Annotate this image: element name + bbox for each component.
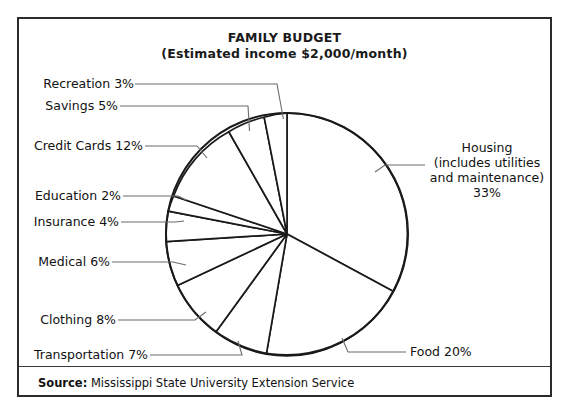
leader-line-transportation (150, 341, 242, 355)
label-savings: Savings 5% (14, 98, 118, 113)
leader-line-clothing (118, 312, 206, 320)
source-divider (19, 366, 550, 367)
label-recreation: Recreation 3% (24, 76, 134, 91)
label-housing: Housing (includes utilities and maintena… (426, 140, 548, 200)
label-insurance: Insurance 4% (18, 214, 119, 229)
label-credit-cards: Credit Cards 12% (20, 138, 143, 153)
chart-figure: FAMILY BUDGET (Estimated income $2,000/m… (0, 0, 574, 417)
source-text: Mississippi State University Extension S… (91, 376, 354, 390)
label-medical: Medical 6% (22, 254, 110, 269)
leader-line-recreation (135, 84, 283, 119)
label-transportation: Transportation 7% (14, 347, 148, 362)
leader-line-food (342, 338, 406, 352)
label-housing-line-4: 33% (426, 185, 548, 200)
label-housing-line-3: and maintenance) (426, 170, 548, 185)
label-food: Food 20% (410, 344, 472, 359)
source-note: Source: Mississippi State University Ext… (38, 376, 354, 390)
label-housing-line-2: (includes utilities (426, 155, 548, 170)
label-clothing: Clothing 8% (24, 312, 116, 327)
source-label: Source: (38, 376, 87, 390)
label-education: Education 2% (20, 188, 121, 203)
label-housing-line-1: Housing (426, 140, 548, 155)
